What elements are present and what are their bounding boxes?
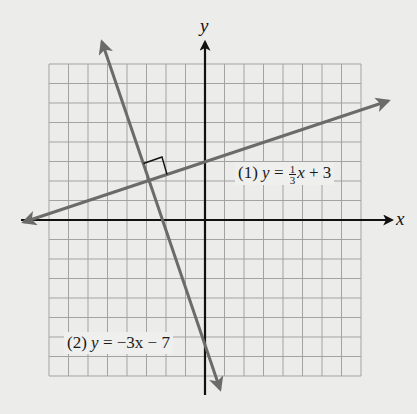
x-axis-label: x	[396, 208, 404, 230]
eq1-number: (1)	[238, 163, 258, 182]
eq1-var: x	[297, 163, 305, 182]
eq2-rhs: −3x	[117, 333, 144, 352]
plot-svg	[0, 0, 417, 414]
y-axis-label: y	[200, 15, 208, 37]
eq2-lhs: y	[91, 333, 99, 352]
coordinate-plane: y x (1) y = 13x + 3 (2) y = −3x − 7	[0, 0, 417, 414]
eq2-rest: − 7	[148, 333, 170, 352]
eq1-fraction: 13	[289, 164, 297, 185]
eq2-equals: =	[103, 333, 113, 352]
eq1-rest: + 3	[309, 163, 331, 182]
eq1-denominator: 3	[289, 175, 297, 185]
eq1-numerator: 1	[289, 164, 297, 175]
equation-2-label: (2) y = −3x − 7	[64, 332, 173, 354]
equation-1-label: (1) y = 13x + 3	[235, 162, 334, 185]
eq2-number: (2)	[67, 333, 87, 352]
eq1-equals: =	[274, 163, 284, 182]
eq1-lhs: y	[262, 163, 270, 182]
